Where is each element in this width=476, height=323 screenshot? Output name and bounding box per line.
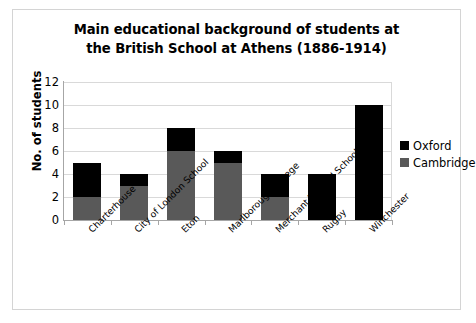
bar-segment-oxford[interactable]	[355, 105, 383, 220]
stacked-bar[interactable]	[73, 163, 101, 221]
legend-item-label: Oxford	[413, 139, 451, 153]
legend-swatch-oxford	[400, 141, 409, 150]
chart-title-line-2: the British School at Athens (1886-1914)	[13, 39, 460, 58]
bar-segment-oxford[interactable]	[73, 163, 101, 198]
y-axis-tick-label: 2	[15, 190, 59, 204]
x-axis-tick	[392, 221, 393, 225]
y-axis-tick-label: 10	[15, 98, 59, 112]
chart-legend: OxfordCambridge	[400, 137, 472, 171]
y-axis-tick-label: 4	[15, 167, 59, 181]
legend-item-label: Cambridge	[413, 156, 476, 170]
bar-segment-oxford[interactable]	[167, 128, 195, 151]
chart-title-line-1: Main educational background of students …	[74, 22, 399, 37]
bar-segment-cambridge[interactable]	[214, 163, 242, 221]
chart-container: Main educational background of students …	[12, 9, 461, 310]
stacked-bar[interactable]	[214, 151, 242, 220]
bar-slot	[64, 82, 111, 220]
y-axis-tick-label: 0	[15, 213, 59, 227]
y-axis-line	[63, 81, 64, 221]
y-axis-tick-label: 6	[15, 144, 59, 158]
stacked-bar[interactable]	[355, 105, 383, 220]
bar-slot	[205, 82, 252, 220]
y-axis-tick-label: 8	[15, 121, 59, 135]
legend-item[interactable]: Oxford	[400, 137, 472, 154]
x-axis-category-labels: CharterhouseCity of London SchoolEtonMar…	[64, 221, 392, 321]
chart-title: Main educational background of students …	[13, 20, 460, 58]
bar-segment-oxford[interactable]	[214, 151, 242, 163]
legend-swatch-cambridge	[400, 158, 409, 167]
bar-segment-oxford[interactable]	[120, 174, 148, 186]
legend-item[interactable]: Cambridge	[400, 154, 472, 171]
y-axis-tick-labels: 121086420	[13, 82, 59, 220]
y-axis-tick-label: 12	[15, 75, 59, 89]
